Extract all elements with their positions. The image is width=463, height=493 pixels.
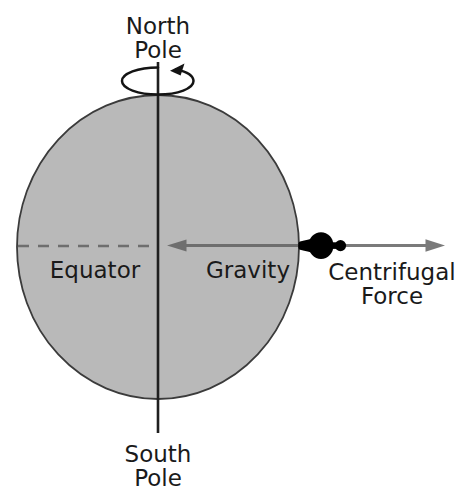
centrifugal-force-label-line2: Force: [361, 283, 423, 309]
centrifugal-vector: [330, 239, 445, 251]
north-pole-label-line1: North: [126, 13, 190, 39]
north-pole-label-line2: Pole: [134, 37, 182, 63]
person-on-equator: [298, 232, 346, 259]
rotation-arrowhead-icon: [170, 64, 185, 76]
equator-label: Equator: [50, 257, 141, 283]
gravity-label: Gravity: [206, 257, 290, 283]
centrifugal-force-label-line1: Centrifugal: [328, 259, 455, 285]
centrifugal-arrowhead-icon: [426, 239, 446, 251]
diagram-canvas: North Pole Equator Gravity Centrifugal F…: [0, 0, 463, 493]
south-pole-label-line2: Pole: [134, 465, 182, 491]
south-pole-label-line1: South: [125, 441, 192, 467]
physics-diagram: North Pole Equator Gravity Centrifugal F…: [0, 0, 463, 493]
